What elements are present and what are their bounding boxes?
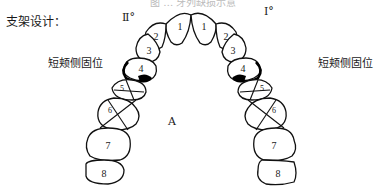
tooth-right-4: 4	[228, 58, 261, 83]
tooth-number: 1	[202, 21, 207, 32]
tooth-left-5: 5	[112, 80, 146, 100]
tooth-left-6: 6	[98, 98, 139, 130]
tooth-number: 7	[106, 140, 111, 151]
tooth-number: 8	[276, 168, 281, 179]
tooth-left-1: 1	[166, 13, 191, 44]
tooth-left-8: 8	[86, 160, 124, 184]
tooth-right-7: 7	[254, 128, 296, 161]
tooth-right-5: 5	[238, 80, 272, 100]
tooth-number: 4	[139, 63, 144, 74]
tooth-number: 6	[108, 106, 112, 115]
tooth-number: 6	[272, 106, 276, 115]
tooth-number: 5	[260, 84, 264, 93]
tooth-right-8: 8	[258, 160, 296, 185]
tooth-number: 1	[178, 21, 183, 32]
tooth-left-7: 7	[86, 128, 130, 161]
tooth-number: 4	[241, 63, 246, 74]
tooth-right-6: 6	[245, 98, 286, 130]
tooth-number: 3	[147, 45, 152, 56]
dental-arch-diagram: 图 … 牙列缺损示意 支架设计： Ⅱ° Ⅰ° 短颊侧固位 短颊侧固位 A B 1…	[0, 0, 380, 187]
tooth-arch-svg: 1 1 2 2 3 3 4	[0, 0, 380, 187]
tooth-number: 3	[231, 45, 236, 56]
tooth-number: 5	[120, 84, 124, 93]
tooth-right-1: 1	[191, 13, 216, 44]
tooth-number: 7	[272, 140, 277, 151]
tooth-left-4: 4	[123, 58, 156, 83]
tooth-number: 8	[102, 168, 107, 179]
